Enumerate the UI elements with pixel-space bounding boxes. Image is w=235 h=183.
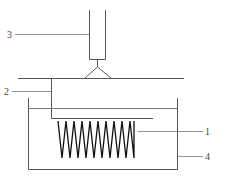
tube-connector — [85, 60, 111, 79]
apparatus-diagram: 3 2 1 4 — [0, 0, 235, 183]
spring — [58, 121, 134, 158]
tube — [90, 10, 106, 60]
label-holder: 2 — [4, 86, 9, 97]
label-container: 4 — [205, 151, 210, 162]
holder — [52, 79, 154, 119]
label-spring: 1 — [205, 126, 210, 137]
label-tube: 3 — [7, 29, 12, 40]
